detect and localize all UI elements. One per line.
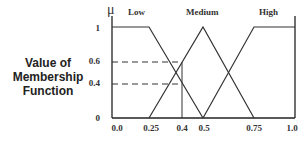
membership-chart: μ Low Medium High 1 0.6 0.4 0 0.0 0.25 0… — [0, 0, 304, 147]
mu-symbol: μ — [107, 2, 115, 17]
xtick-0.5: 0.5 — [198, 123, 210, 133]
xtick-0.25: 0.25 — [143, 123, 159, 133]
legend-medium: Medium — [186, 7, 219, 17]
xtick-0.0: 0.0 — [111, 123, 123, 133]
ytick-1: 1 — [96, 23, 101, 33]
xtick-0.4: 0.4 — [176, 123, 188, 133]
ytick-0: 0 — [96, 113, 101, 123]
xtick-0.75: 0.75 — [246, 123, 262, 133]
legend-high: High — [259, 7, 278, 17]
ytick-0.4: 0.4 — [89, 78, 101, 88]
series-medium — [149, 27, 254, 118]
xtick-1.0: 1.0 — [286, 123, 298, 133]
legend-low: Low — [128, 7, 146, 17]
series-high — [203, 27, 295, 118]
ytick-0.6: 0.6 — [89, 56, 101, 66]
